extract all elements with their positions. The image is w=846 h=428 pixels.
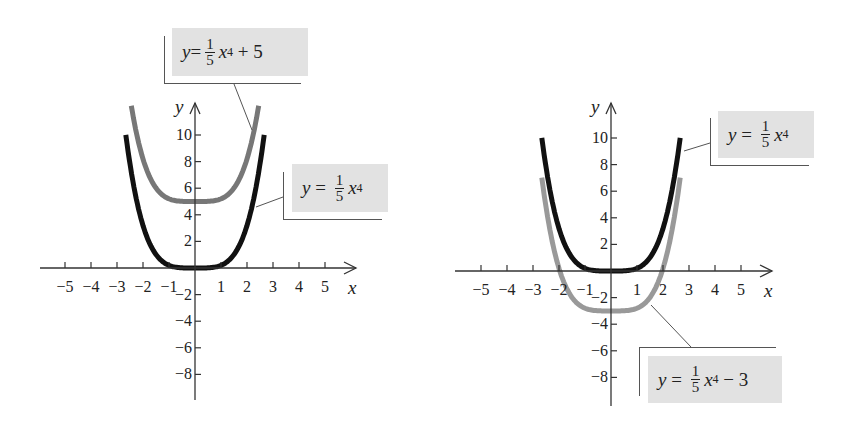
y-tick-label: −6 (591, 342, 608, 359)
x-tick-label: 4 (295, 278, 303, 295)
x-axis-label: x (347, 277, 357, 298)
callout-var-x: x (704, 369, 712, 391)
callout-leader-line (684, 143, 710, 151)
x-tick-label: −5 (56, 278, 73, 295)
x-tick-label: 3 (269, 278, 277, 295)
callout-var-x: x (774, 124, 782, 146)
callout-shift: + 5 (233, 41, 263, 63)
callout-fraction: 1 5 (761, 119, 771, 150)
y-tick-label: 10 (176, 126, 192, 143)
fraction-denominator: 5 (762, 135, 770, 150)
fraction-numerator: 1 (335, 173, 345, 189)
y-tick-label: −4 (175, 312, 192, 329)
y-axis-label: y (589, 96, 600, 117)
y-tick-label: 4 (184, 206, 192, 223)
fraction-numerator: 1 (761, 119, 771, 135)
callout-var-x: x (348, 177, 356, 199)
x-axis-label: x (763, 280, 773, 301)
callout-right-base: y = 1 5 x4 (718, 111, 814, 158)
y-tick-label: −4 (591, 315, 608, 332)
x-tick-label: −3 (108, 278, 125, 295)
y-tick-label: 2 (184, 232, 192, 249)
x-tick-label: 4 (711, 281, 719, 298)
callout-var-x: x (219, 41, 227, 63)
fraction-denominator: 5 (336, 189, 344, 204)
callout-fraction: 1 5 (335, 173, 345, 204)
fraction-denominator: 5 (206, 53, 214, 68)
y-tick-label: 6 (600, 182, 608, 199)
y-tick-label: 6 (184, 179, 192, 196)
x-tick-label: 5 (321, 278, 329, 295)
callout-fraction: 1 5 (691, 364, 701, 395)
callout-var-y: y (728, 124, 736, 146)
x-tick-label: −3 (524, 281, 541, 298)
callout-right-shift-down: y = 1 5 x4 − 3 (648, 356, 782, 403)
callout-var-y: y (182, 41, 190, 63)
y-tick-label: −8 (175, 365, 192, 382)
callout-equals: = (310, 177, 330, 199)
callout-leader-line (256, 197, 283, 207)
y-tick-label: −8 (591, 368, 608, 385)
x-tick-label: −4 (82, 278, 99, 295)
callout-exponent: 4 (357, 181, 363, 196)
y-tick-label: 10 (592, 129, 608, 146)
y-tick-label: −2 (175, 286, 192, 303)
y-tick-label: 2 (600, 235, 608, 252)
x-tick-label: −2 (134, 278, 151, 295)
y-tick-label: 8 (184, 153, 192, 170)
callout-leader-line (234, 84, 252, 130)
x-tick-label: 1 (633, 281, 641, 298)
fraction-numerator: 1 (691, 364, 701, 380)
callout-equals: = (666, 369, 686, 391)
callout-shift: − 3 (719, 369, 749, 391)
callout-leader-line (651, 305, 691, 347)
callout-var-y: y (302, 177, 310, 199)
x-tick-label: −2 (550, 281, 567, 298)
x-tick-label: 1 (217, 278, 225, 295)
x-tick-label: 2 (243, 278, 251, 295)
callout-left-base: y = 1 5 x4 (292, 164, 388, 212)
x-tick-label: 2 (659, 281, 667, 298)
callout-equals: = (190, 41, 201, 63)
y-tick-label: 8 (600, 156, 608, 173)
y-tick-label: −6 (175, 339, 192, 356)
x-tick-label: 5 (737, 281, 745, 298)
y-tick-label: −2 (591, 289, 608, 306)
x-tick-label: −4 (498, 281, 515, 298)
chart-left: −5−4−3−2−112345108642−2−4−6−8xy (40, 84, 357, 400)
x-tick-label: −5 (472, 281, 489, 298)
y-tick-label: 4 (600, 209, 608, 226)
callout-exponent: 4 (783, 127, 789, 142)
fraction-denominator: 5 (692, 380, 700, 395)
y-axis-label: y (173, 96, 184, 117)
callout-var-y: y (658, 369, 666, 391)
callout-fraction: 1 5 (205, 37, 215, 68)
fraction-numerator: 1 (205, 37, 215, 53)
x-tick-label: 3 (685, 281, 693, 298)
callout-left-shift-up: y = 1 5 x4 + 5 (172, 28, 308, 76)
callout-equals: = (736, 124, 756, 146)
